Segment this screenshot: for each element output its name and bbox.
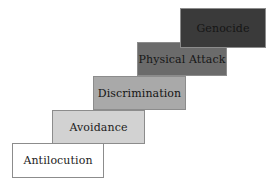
step-label-physical-attack: Physical Attack	[138, 54, 225, 65]
diagram-step-avoidance: Avoidance	[52, 110, 145, 144]
prejudice-scale-diagram: Antilocution Avoidance Discrimination Ph…	[0, 0, 278, 183]
diagram-step-genocide: Genocide	[180, 8, 266, 48]
diagram-step-discrimination: Discrimination	[93, 76, 186, 110]
step-label-discrimination: Discrimination	[98, 88, 182, 99]
step-label-avoidance: Avoidance	[69, 122, 127, 133]
step-label-antilocution: Antilocution	[23, 155, 92, 166]
step-label-genocide: Genocide	[196, 23, 249, 34]
diagram-step-antilocution: Antilocution	[12, 143, 104, 178]
